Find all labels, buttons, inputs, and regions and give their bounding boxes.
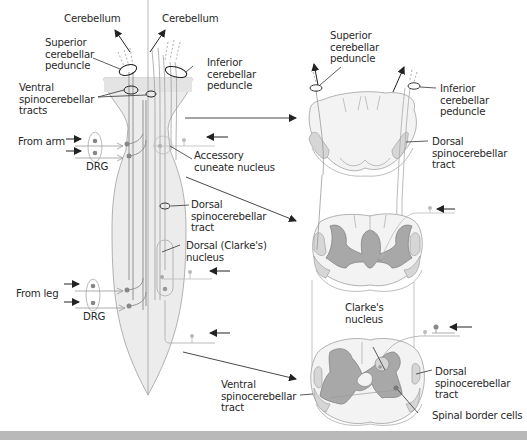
bottom-band <box>0 431 527 440</box>
label-dorsal-tract-left: Dorsal spinocerebellar tract <box>191 199 266 234</box>
label-clarkes-nucleus-right: Clarke's nucleus <box>345 302 384 325</box>
label-inferior-peduncle-right: Inferior cerebellar peduncle <box>440 83 489 118</box>
label-ventral-tract-right: Ventral spinocerebellar tract <box>221 379 296 414</box>
label-dorsal-tract-top: Dorsal spinocerebellar tract <box>432 136 507 171</box>
label-accessory-cuneate: Accessory cuneate nucleus <box>194 150 275 173</box>
label-superior-peduncle-left: Superior cerebellar peduncle <box>45 37 94 72</box>
label-clarkes-nucleus-left: Dorsal (Clarke's) nucleus <box>186 240 267 263</box>
label-drg-upper: DRG <box>86 161 108 173</box>
label-from-arm: From arm <box>18 136 65 148</box>
label-cerebellum-left: Cerebellum <box>64 13 120 25</box>
label-inferior-peduncle-left: Inferior cerebellar peduncle <box>207 57 256 92</box>
label-ventral-tracts: Ventral spinocerebellar tracts <box>19 82 94 117</box>
label-from-leg: From leg <box>16 288 58 300</box>
longitudinal-cord <box>64 0 296 395</box>
label-drg-lower: DRG <box>83 311 105 323</box>
label-superior-peduncle-right: Superior cerebellar peduncle <box>330 30 379 65</box>
label-dorsal-tract-bottom: Dorsal spinocerebellar tract <box>435 366 510 401</box>
spinocerebellar-diagram: Cerebellum Cerebellum Superior cerebella… <box>0 0 527 440</box>
label-spinal-border-cells: Spinal border cells <box>432 410 522 422</box>
label-cerebellum-right: Cerebellum <box>162 13 218 25</box>
